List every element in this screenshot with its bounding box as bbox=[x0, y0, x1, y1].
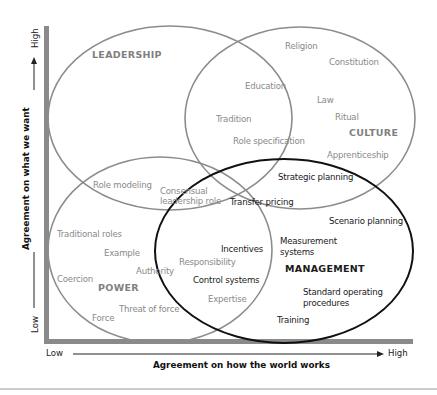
power-title: POWER bbox=[98, 283, 139, 293]
item-tradition: Tradition bbox=[216, 114, 251, 124]
item-sop-line2: procedures bbox=[303, 298, 349, 308]
y-axis-title: Agreement on what we want bbox=[21, 107, 31, 250]
item-threat-of-force: Threat of force bbox=[119, 304, 179, 314]
item-constitution: Constitution bbox=[329, 57, 379, 67]
x-axis-arrowhead bbox=[377, 351, 384, 357]
item-sop-line1: Standard operating bbox=[303, 287, 383, 297]
item-coercion: Coercion bbox=[57, 274, 93, 284]
item-force: Force bbox=[92, 313, 114, 323]
item-control-systems: Control systems bbox=[193, 275, 259, 285]
leadership-title: LEADERSHIP bbox=[92, 50, 162, 60]
item-expertise: Expertise bbox=[208, 294, 247, 304]
item-role-modeling: Role modeling bbox=[93, 180, 152, 190]
item-traditional-roles: Traditional roles bbox=[57, 229, 122, 239]
item-transfer-pricing: Transfer pricing bbox=[230, 197, 293, 207]
y-axis-bar bbox=[44, 26, 49, 344]
item-incentives: Incentives bbox=[221, 244, 263, 254]
venn-diagram: High Agreement on what we want Low Low H… bbox=[0, 0, 437, 395]
item-consensual-line2: leadership role bbox=[160, 196, 221, 206]
item-example: Example bbox=[104, 248, 140, 258]
item-consensual-line1: Consensual bbox=[160, 186, 208, 196]
management-title: MANAGEMENT bbox=[285, 264, 365, 274]
item-religion: Religion bbox=[285, 41, 318, 51]
x-axis-title: Agreement on how the world works bbox=[153, 360, 330, 370]
item-training: Training bbox=[277, 315, 309, 325]
leadership-circle bbox=[48, 26, 292, 210]
culture-title: CULTURE bbox=[349, 128, 398, 138]
item-role-specification: Role specification bbox=[233, 136, 305, 146]
item-apprenticeship: Apprenticeship bbox=[327, 150, 389, 160]
y-axis-low-label: Low bbox=[30, 316, 40, 333]
item-measurement-line2: systems bbox=[280, 247, 314, 257]
x-axis-high-label: High bbox=[388, 348, 408, 358]
y-axis-high-label: High bbox=[30, 28, 40, 48]
item-scenario-planning: Scenario planning bbox=[329, 216, 403, 226]
item-strategic-planning: Strategic planning bbox=[278, 172, 353, 182]
item-law: Law bbox=[317, 95, 333, 105]
item-responsibility: Responsibility bbox=[179, 257, 236, 267]
x-axis-low-label: Low bbox=[46, 348, 63, 358]
item-authority: Authority bbox=[136, 266, 174, 276]
x-axis-bar bbox=[44, 339, 413, 344]
y-axis-arrowhead bbox=[31, 57, 37, 64]
item-ritual: Ritual bbox=[335, 112, 359, 122]
item-measurement-line1: Measurement bbox=[280, 236, 337, 246]
item-education: Education bbox=[245, 81, 286, 91]
